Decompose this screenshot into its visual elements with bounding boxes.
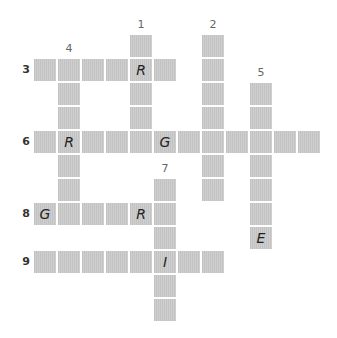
grid-cell-r2-c9[interactable] [250,83,272,105]
grid-cell-r2-c1[interactable] [58,83,80,105]
crossword-board: 123456789RREGIGR [0,0,337,338]
grid-cell-r4-c11[interactable] [298,131,320,153]
grid-cell-r8-c5[interactable] [154,227,176,249]
grid-cell-r6-c9[interactable] [250,179,272,201]
grid-cell-r1-c1[interactable] [58,59,80,81]
grid-cell-r7-c9[interactable] [250,203,272,225]
grid-cell-r9-c3[interactable] [106,251,128,273]
grid-cell-r9-c5[interactable]: I [154,251,176,273]
clue-number-8: 8 [18,203,30,225]
grid-cell-r7-c1[interactable] [58,203,80,225]
clue-number-1: 1 [130,19,152,31]
clue-number-5: 5 [250,67,272,79]
grid-cell-r4-c4[interactable] [130,131,152,153]
grid-cell-r7-c4[interactable]: R [130,203,152,225]
grid-cell-r10-c5[interactable] [154,275,176,297]
grid-cell-r11-c5[interactable] [154,299,176,321]
grid-cell-r1-c3[interactable] [106,59,128,81]
grid-cell-r6-c7[interactable] [202,179,224,201]
grid-cell-r4-c9[interactable] [250,131,272,153]
grid-cell-r4-c3[interactable] [106,131,128,153]
grid-cell-r3-c9[interactable] [250,107,272,129]
grid-cell-r6-c5[interactable] [154,179,176,201]
grid-cell-r7-c5[interactable] [154,203,176,225]
grid-cell-r3-c7[interactable] [202,107,224,129]
grid-cell-r0-c7[interactable] [202,35,224,57]
grid-cell-r7-c2[interactable] [82,203,104,225]
grid-cell-r1-c7[interactable] [202,59,224,81]
grid-cell-r3-c4[interactable] [130,107,152,129]
grid-cell-r4-c5[interactable]: G [154,131,176,153]
grid-cell-r3-c1[interactable] [58,107,80,129]
grid-cell-r5-c1[interactable] [58,155,80,177]
grid-cell-r1-c2[interactable] [82,59,104,81]
grid-cell-r4-c2[interactable] [82,131,104,153]
grid-cell-r9-c4[interactable] [130,251,152,273]
grid-cell-r4-c6[interactable] [178,131,200,153]
grid-cell-r1-c4[interactable]: R [130,59,152,81]
grid-cell-r9-c6[interactable] [178,251,200,273]
clue-number-2: 2 [202,19,224,31]
grid-cell-r5-c7[interactable] [202,155,224,177]
grid-cell-r2-c7[interactable] [202,83,224,105]
grid-cell-r4-c7[interactable] [202,131,224,153]
grid-cell-r4-c10[interactable] [274,131,296,153]
grid-cell-r1-c5[interactable] [154,59,176,81]
grid-cell-r7-c0[interactable]: G [34,203,56,225]
grid-cell-r4-c0[interactable] [34,131,56,153]
grid-cell-r4-c8[interactable] [226,131,248,153]
grid-cell-r8-c9[interactable]: E [250,227,272,249]
clue-number-6: 6 [18,131,30,153]
grid-cell-r5-c9[interactable] [250,155,272,177]
grid-cell-r9-c0[interactable] [34,251,56,273]
grid-cell-r2-c4[interactable] [130,83,152,105]
clue-number-7: 7 [154,163,176,175]
clue-number-3: 3 [18,59,30,81]
clue-number-9: 9 [18,251,30,273]
grid-cell-r9-c1[interactable] [58,251,80,273]
grid-cell-r9-c2[interactable] [82,251,104,273]
grid-cell-r0-c4[interactable] [130,35,152,57]
grid-cell-r1-c0[interactable] [34,59,56,81]
grid-cell-r4-c1[interactable]: R [58,131,80,153]
clue-number-4: 4 [58,43,80,55]
grid-cell-r6-c1[interactable] [58,179,80,201]
grid-cell-r9-c7[interactable] [202,251,224,273]
grid-cell-r7-c3[interactable] [106,203,128,225]
